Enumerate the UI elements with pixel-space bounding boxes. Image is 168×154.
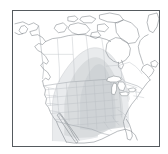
- map-frame-border: [12, 10, 160, 147]
- map-thumbnail[interactable]: [0, 0, 168, 154]
- north-america-map[interactable]: [13, 11, 159, 146]
